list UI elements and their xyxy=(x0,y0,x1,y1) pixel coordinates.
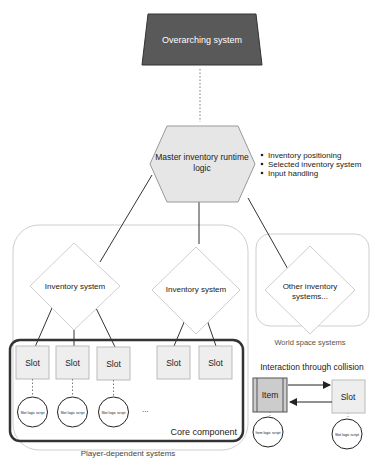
world-space-systems-label: World space systems xyxy=(274,338,345,347)
link-inv2-slot5 xyxy=(207,320,216,346)
collision-slot-label: Slot xyxy=(341,392,356,402)
other-systems-label-2: systems... xyxy=(292,292,328,301)
bullet-dot xyxy=(261,154,264,157)
slot-label: Slot xyxy=(65,358,80,368)
item-logic-script-label: Item logic script xyxy=(256,431,281,435)
slot-logic-script-label: Slot logic script xyxy=(20,411,44,415)
link-inv2-slot4 xyxy=(174,320,185,346)
diagram-canvas: Overarching system Master inventory runt… xyxy=(0,0,378,472)
bullet-item: Input handling xyxy=(268,169,318,178)
other-systems-label-1: Other inventory xyxy=(283,282,338,291)
slot-ellipsis: ... xyxy=(142,405,149,414)
bullet-item: Selected inventory system xyxy=(268,160,362,169)
slot-label: Slot xyxy=(208,358,223,368)
core-component-label: Core component xyxy=(170,427,237,437)
master-label-line2: logic xyxy=(193,163,211,173)
item-label: Item xyxy=(262,390,279,400)
bullet-dot xyxy=(261,163,264,166)
link-master-inv1 xyxy=(100,175,152,262)
bullet-item: Inventory positioning xyxy=(268,151,341,160)
collision-title: Interaction through collision xyxy=(260,362,364,372)
inventory-system-label-1: Inventory system xyxy=(45,282,106,291)
slot-logic-script-label: Slot logic script xyxy=(101,411,125,415)
bullet-dot xyxy=(261,172,264,175)
player-dependent-systems-label: Player-dependent systems xyxy=(81,449,176,458)
inventory-system-label-2: Inventory system xyxy=(166,285,227,294)
slot-logic-script-label: Slot logic script xyxy=(335,433,359,437)
slot-label: Slot xyxy=(25,358,40,368)
master-label-line1: Master inventory runtime xyxy=(155,152,249,162)
slot-label: Slot xyxy=(166,358,181,368)
overarching-system-label: Overarching system xyxy=(162,35,242,45)
slot-logic-script-label: Slot logic script xyxy=(60,411,84,415)
slot-label: Slot xyxy=(106,359,121,369)
